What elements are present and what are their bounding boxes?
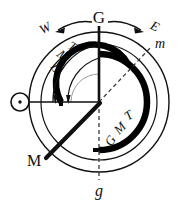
gmt-letter-T: T	[121, 107, 136, 124]
lmt-mid-guide-arc	[68, 58, 99, 102]
label-greenwich-lower-g: g	[95, 182, 103, 200]
label-west-W: W	[37, 18, 55, 37]
diagram-root: G W E m M g L M T G M T	[0, 0, 180, 204]
label-lmt-arc: L M T	[47, 38, 80, 75]
label-greenwich-G: G	[93, 8, 105, 27]
time-diagram-figure: G W E m M g L M T G M T	[0, 0, 180, 204]
label-east-E: E	[147, 17, 162, 34]
label-local-meridian-m: m	[155, 36, 165, 51]
inner-guide-arc	[71, 74, 99, 102]
label-local-meridian-M: M	[27, 152, 41, 169]
local-meridian-heavy-line	[46, 103, 100, 158]
sun-symbol	[11, 93, 29, 111]
